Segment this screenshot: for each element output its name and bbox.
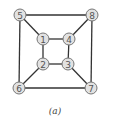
node-2: 2 xyxy=(37,58,49,70)
node-5: 5 xyxy=(14,9,26,21)
node-label: 4 xyxy=(66,35,72,45)
node-label: 7 xyxy=(88,84,94,94)
node-8: 8 xyxy=(86,9,98,21)
figure-caption: (a) xyxy=(0,106,110,116)
node-label: 3 xyxy=(65,60,71,70)
edge-8-7 xyxy=(91,15,92,88)
node-label: 8 xyxy=(89,11,95,21)
node-1: 1 xyxy=(37,33,49,45)
node-label: 1 xyxy=(40,35,46,45)
node-6: 6 xyxy=(13,82,25,94)
node-3: 3 xyxy=(62,58,74,70)
node-label: 6 xyxy=(16,84,22,94)
graph-edges xyxy=(19,15,92,88)
node-4: 4 xyxy=(63,33,75,45)
node-label: 5 xyxy=(17,11,23,21)
node-label: 2 xyxy=(40,60,46,70)
edge-5-6 xyxy=(19,15,20,88)
node-7: 7 xyxy=(85,82,97,94)
graph-canvas: 12345678 xyxy=(0,0,121,110)
